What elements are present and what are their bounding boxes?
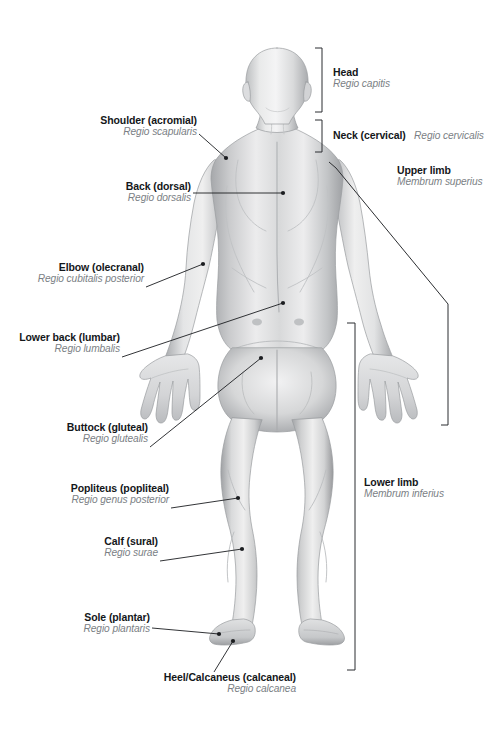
label-head-en: Head: [333, 66, 390, 78]
leader-dot-shoulder: [224, 156, 228, 160]
label-neck-en: Neck (cervical): [333, 129, 406, 141]
label-back-la: Regio dorsalis: [0, 192, 191, 204]
label-elbow-la: Regio cubitalis posterior: [0, 273, 144, 285]
label-sole-en: Sole (plantar): [0, 611, 150, 623]
label-shoulder-la: Regio scapularis: [0, 126, 197, 138]
label-heel-la: Regio calcanea: [0, 683, 296, 695]
label-buttock: Buttock (gluteal) Regio glutealis: [0, 421, 148, 445]
bracket-upper-limb: [329, 162, 448, 425]
leader-dot-buttock: [259, 356, 263, 360]
label-popliteus-en: Popliteus (popliteal): [0, 482, 169, 494]
label-lower-back-la: Regio lumbalis: [0, 343, 120, 355]
bracket-neck: [315, 120, 322, 152]
label-lower-back: Lower back (lumbar) Regio lumbalis: [0, 331, 120, 355]
label-heel: Heel/Calcaneus (calcaneal) Regio calcane…: [0, 671, 296, 695]
label-lower-limb: Lower limb Membrum inferius: [364, 476, 444, 500]
label-lower-back-en: Lower back (lumbar): [0, 331, 120, 343]
leader-calf: [160, 549, 242, 561]
bracket-lower-limb: [347, 323, 355, 670]
label-shoulder-en: Shoulder (acromial): [0, 114, 197, 126]
label-calf-la: Regio surae: [0, 547, 158, 559]
label-buttock-en: Buttock (gluteal): [0, 421, 148, 433]
label-shoulder: Shoulder (acromial) Regio scapularis: [0, 114, 197, 138]
anatomy-figure-stage: Head Regio capitis Neck (cervical) Regio…: [0, 0, 494, 739]
label-sole-la: Regio plantaris: [0, 623, 150, 635]
label-elbow: Elbow (olecranal) Regio cubitalis poster…: [0, 261, 144, 285]
leader-buttock: [150, 358, 261, 447]
leader-shoulder: [199, 134, 226, 158]
label-back-en: Back (dorsal): [0, 180, 191, 192]
leader-heel: [214, 641, 233, 672]
label-popliteus-la: Regio genus posterior: [0, 494, 169, 506]
leader-dot-lower-back: [281, 301, 285, 305]
label-upper-limb-en: Upper limb: [397, 164, 483, 176]
leader-dot-calf: [240, 547, 244, 551]
leader-elbow: [146, 264, 203, 287]
label-upper-limb: Upper limb Membrum superius: [397, 164, 483, 188]
label-elbow-en: Elbow (olecranal): [0, 261, 144, 273]
leader-popliteus: [171, 498, 238, 508]
bracket-head: [315, 48, 322, 112]
label-upper-limb-la: Membrum superius: [397, 176, 483, 188]
label-calf-en: Calf (sural): [0, 535, 158, 547]
label-sole: Sole (plantar) Regio plantaris: [0, 611, 150, 635]
label-head-la: Regio capitis: [333, 78, 390, 90]
leader-dot-popliteus: [236, 496, 240, 500]
leader-dot-elbow: [201, 262, 205, 266]
label-back: Back (dorsal) Regio dorsalis: [0, 180, 191, 204]
label-lower-limb-en: Lower limb: [364, 476, 444, 488]
label-neck-la: Regio cervicalis: [414, 130, 484, 141]
label-heel-en: Heel/Calcaneus (calcaneal): [0, 671, 296, 683]
label-lower-limb-la: Membrum inferius: [364, 488, 444, 500]
label-head: Head Regio capitis: [333, 66, 390, 90]
leader-sole: [152, 628, 219, 634]
label-calf: Calf (sural) Regio surae: [0, 535, 158, 559]
leader-lower-back: [122, 303, 283, 357]
label-popliteus: Popliteus (popliteal) Regio genus poster…: [0, 482, 169, 506]
leader-dot-back: [281, 191, 285, 195]
leader-dot-heel: [231, 639, 235, 643]
leader-dot-sole: [217, 632, 221, 636]
label-neck: Neck (cervical) Regio cervicalis: [333, 125, 484, 144]
label-buttock-la: Regio glutealis: [0, 433, 148, 445]
